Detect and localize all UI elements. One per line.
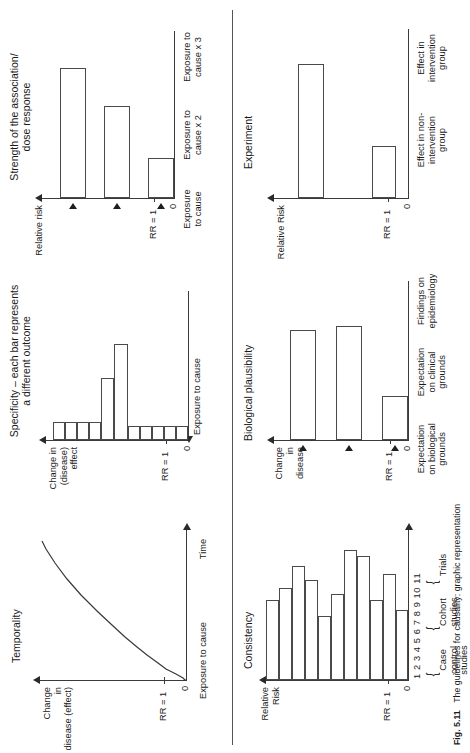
consistency-rr-label: RR = 1 [382, 692, 392, 721]
panel-strength: Strength of the association/ dose respon… [6, 7, 228, 265]
biological-y-axis-arrow [267, 437, 274, 445]
strength-y-axis-arrow [35, 195, 42, 203]
experiment-zero-label: 0 [402, 204, 412, 209]
biological-rr-label: RR = 1 [384, 452, 394, 481]
panel-biological-plausibility: Biological plausibility RR = 1 0 Change … [240, 271, 462, 507]
panel-title-biological-plausibility: Biological plausibility [242, 345, 254, 441]
bar-consistency-6 [331, 594, 344, 680]
strength-pointer-1 [157, 203, 165, 209]
biological-category-1: Expectation on biological grounds [416, 409, 448, 489]
bar-consistency-5 [344, 550, 357, 680]
panel-consistency: Consistency RR = 1 0 Relative Risk 1 2 3… [240, 512, 462, 747]
strength-y-axis-label: Relative risk [34, 205, 45, 275]
panel-title-temporality: Temporality [10, 609, 22, 663]
experiment-x-axis [408, 29, 409, 199]
panel-title-strength: Strength of the association/ dose respon… [8, 17, 33, 217]
consistency-trial-numbers: 1 2 3 4 5 6 7 8 9 10 11 [412, 573, 422, 679]
bar-consistency-11 [266, 600, 279, 680]
strength-x-axis [174, 31, 175, 199]
bar-consistency-8 [305, 580, 318, 680]
experiment-rr-label: RR = 1 [382, 210, 392, 239]
consistency-zero-label: 0 [402, 686, 412, 691]
bar-specificity-5 [128, 426, 140, 440]
bar-specificity-9 [77, 422, 89, 440]
temporality-zero-label: 0 [180, 686, 190, 691]
bar-specificity-8 [89, 422, 101, 440]
consistency-y-axis-label: Relative Risk [260, 687, 281, 741]
panel-title-specificity: Specificity – each bar represents a diff… [8, 261, 33, 461]
panel-temporality: Temporality RR = 1 0 Change in disease (… [6, 512, 228, 747]
row-divider [232, 10, 233, 745]
specificity-y-axis-arrow [39, 437, 46, 445]
bar-consistency-7 [318, 616, 331, 680]
specificity-x-axis [188, 291, 189, 441]
consistency-brace-cohort: { [424, 626, 439, 630]
experiment-category-2: Effect in intervention group [416, 23, 448, 93]
bar-specificity-7 [101, 378, 114, 440]
bar-biological-1 [382, 396, 408, 440]
consistency-brace-trials: { [424, 580, 439, 584]
biological-y-axis-label: Change in disease [274, 447, 306, 507]
temporality-rr-label: RR = 1 [158, 692, 168, 721]
specificity-x-axis-label: Exposure to cause [192, 305, 203, 435]
consistency-x-axis-arrow [405, 523, 413, 530]
strength-pointer-2 [113, 203, 121, 209]
temporality-y-axis-label: Change in disease (effect) [42, 687, 74, 751]
biological-x-axis [408, 281, 409, 441]
figure-caption-label: Fig. 5.11 [452, 710, 462, 745]
biological-pointer-1 [391, 445, 399, 451]
bar-specificity-2 [164, 426, 176, 440]
temporality-x-axis-label: Time [198, 527, 209, 571]
bar-specificity-4 [140, 426, 152, 440]
panel-experiment: Experiment RR = 1 0 Relative Risk Effect… [240, 7, 462, 265]
bar-consistency-10 [279, 588, 292, 680]
bar-consistency-3 [370, 600, 383, 680]
strength-pointer-3 [69, 203, 77, 209]
bar-specificity-6 [114, 344, 128, 440]
bar-specificity-11 [53, 422, 65, 440]
figure-caption-text: The guidelines for causality: graphic re… [452, 504, 462, 703]
strength-category-2: Exposure to cause x 2 [182, 97, 203, 173]
biological-zero-label: 0 [402, 446, 412, 451]
bar-specificity-10 [65, 422, 77, 440]
strength-rr-label: RR = 1 [148, 210, 158, 239]
experiment-y-axis-label: Relative Risk [276, 205, 287, 279]
panel-title-experiment: Experiment [242, 116, 254, 169]
biological-pointer-2 [345, 445, 353, 451]
biological-category-2: Expectation on clinical grounds [416, 337, 448, 407]
temporality-x-origin-label: Exposure to cause [198, 591, 209, 699]
strength-category-3: Exposure to cause x 3 [182, 17, 203, 97]
consistency-brace-case-control: { [424, 672, 439, 676]
temporality-curve [40, 529, 187, 681]
consistency-y-axis-arrow [259, 677, 266, 685]
biological-category-3: Findings on epidemiology [416, 265, 437, 337]
consistency-x-axis [408, 529, 409, 681]
bar-consistency-9 [292, 566, 305, 680]
panel-title-consistency: Consistency [242, 612, 254, 669]
bar-consistency-4 [357, 556, 370, 680]
bar-strength-3 [60, 68, 86, 198]
experiment-category-1: Effect in non- intervention group [416, 101, 448, 179]
bar-biological-3 [290, 330, 316, 440]
panel-specificity: Specificity – each bar represents a diff… [6, 271, 228, 507]
figure-caption: Fig. 5.11 The guidelines for causality: … [452, 504, 462, 745]
consistency-group-label-3: Trials [438, 541, 449, 589]
bar-experiment-2 [298, 64, 324, 198]
specificity-rr-label: RR = 1 [160, 452, 170, 481]
bar-consistency-2 [383, 574, 396, 680]
bar-specificity-1 [176, 426, 188, 440]
strength-zero-label: 0 [168, 204, 178, 209]
specificity-zero-label: 0 [182, 446, 192, 451]
bar-specificity-3 [152, 426, 164, 440]
bar-experiment-1 [372, 146, 396, 198]
strength-category-1: Exposure to cause [182, 173, 203, 245]
bar-consistency-1 [396, 610, 408, 680]
biological-pointer-3 [299, 445, 307, 451]
temporality-y-axis-arrow [33, 677, 40, 685]
experiment-y-axis-arrow [267, 195, 274, 203]
bar-strength-1 [148, 158, 174, 198]
bar-strength-2 [104, 106, 130, 198]
bar-biological-2 [336, 326, 362, 440]
